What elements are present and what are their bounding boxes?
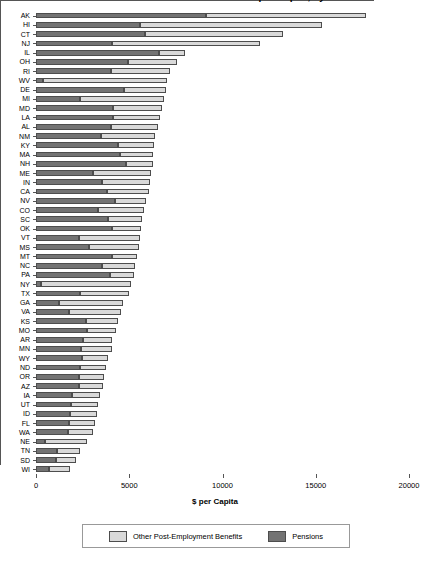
segment-opeb bbox=[112, 254, 137, 260]
y-tick-label-ia: IA bbox=[0, 392, 30, 399]
bar-hi bbox=[36, 22, 322, 28]
y-tick-ut bbox=[33, 405, 36, 406]
segment-opeb bbox=[86, 318, 118, 324]
segment-pensions bbox=[36, 216, 108, 222]
segment-pensions bbox=[36, 420, 69, 426]
segment-opeb bbox=[59, 300, 122, 306]
y-tick-sd bbox=[33, 460, 36, 461]
x-tick-label-5000: 5000 bbox=[121, 481, 138, 490]
y-tick-az bbox=[33, 386, 36, 387]
y-tick-ma bbox=[33, 155, 36, 156]
segment-pensions bbox=[36, 309, 69, 315]
segment-pensions bbox=[36, 365, 80, 371]
segment-opeb bbox=[79, 383, 103, 389]
segment-pensions bbox=[36, 448, 57, 454]
segment-pensions bbox=[36, 328, 87, 334]
bar-wv bbox=[36, 78, 167, 84]
y-tick-label-mn: MN bbox=[0, 345, 30, 352]
y-tick-ms bbox=[33, 247, 36, 248]
bar-nv bbox=[36, 198, 146, 204]
segment-opeb bbox=[140, 22, 322, 28]
legend-swatch-pensions bbox=[268, 531, 286, 542]
bar-ri bbox=[36, 68, 170, 74]
y-tick-label-ok: OK bbox=[0, 225, 30, 232]
segment-opeb bbox=[206, 13, 366, 19]
segment-pensions bbox=[36, 318, 86, 324]
bar-ma bbox=[36, 152, 153, 158]
y-tick-in bbox=[33, 182, 36, 183]
y-tick-nm bbox=[33, 136, 36, 137]
y-tick-de bbox=[33, 90, 36, 91]
segment-pensions bbox=[36, 152, 120, 158]
segment-opeb bbox=[80, 365, 106, 371]
bar-ca bbox=[36, 189, 149, 195]
segment-opeb bbox=[56, 457, 77, 463]
segment-opeb bbox=[126, 161, 153, 167]
segment-pensions bbox=[36, 115, 113, 121]
bar-al bbox=[36, 124, 158, 130]
segment-opeb bbox=[113, 105, 161, 111]
segment-opeb bbox=[111, 124, 159, 130]
y-tick-label-tn: TN bbox=[0, 447, 30, 454]
segment-opeb bbox=[89, 244, 138, 250]
segment-opeb bbox=[111, 68, 171, 74]
y-tick-mt bbox=[33, 256, 36, 257]
bar-mo bbox=[36, 328, 116, 334]
x-tick-label-10000: 10000 bbox=[212, 481, 233, 490]
segment-pensions bbox=[36, 96, 80, 102]
y-tick-me bbox=[33, 173, 36, 174]
x-tick-0 bbox=[36, 474, 37, 478]
segment-pensions bbox=[36, 402, 71, 408]
bar-ut bbox=[36, 402, 98, 408]
segment-opeb bbox=[118, 142, 154, 148]
bar-mn bbox=[36, 346, 112, 352]
y-tick-ca bbox=[33, 192, 36, 193]
y-tick-il bbox=[33, 53, 36, 54]
segment-opeb bbox=[45, 439, 87, 445]
bar-la bbox=[36, 115, 160, 121]
bar-de bbox=[36, 87, 166, 93]
y-tick-nv bbox=[33, 201, 36, 202]
y-tick-label-in: IN bbox=[0, 179, 30, 186]
y-tick-label-nv: NV bbox=[0, 197, 30, 204]
y-tick-va bbox=[33, 312, 36, 313]
bar-ct bbox=[36, 31, 283, 37]
y-tick-label-or: OR bbox=[0, 373, 30, 380]
y-tick-ri bbox=[33, 71, 36, 72]
bar-wi bbox=[36, 466, 70, 472]
bar-nh bbox=[36, 161, 153, 167]
segment-pensions bbox=[36, 429, 68, 435]
bar-ks bbox=[36, 318, 118, 324]
x-tick-5000 bbox=[129, 474, 130, 478]
x-axis-title: $ per Capita bbox=[0, 497, 430, 506]
y-tick-label-pa: PA bbox=[0, 271, 30, 278]
bar-sc bbox=[36, 216, 142, 222]
segment-opeb bbox=[112, 41, 260, 47]
segment-pensions bbox=[36, 291, 80, 297]
x-tick-10000 bbox=[223, 474, 224, 478]
segment-opeb bbox=[120, 152, 154, 158]
bar-tx bbox=[36, 291, 129, 297]
y-tick-label-me: ME bbox=[0, 170, 30, 177]
segment-pensions bbox=[36, 50, 159, 56]
bar-nj bbox=[36, 41, 260, 47]
segment-pensions bbox=[36, 207, 98, 213]
segment-pensions bbox=[36, 244, 89, 250]
legend-swatch-opeb bbox=[109, 531, 127, 542]
bar-co bbox=[36, 207, 144, 213]
segment-opeb bbox=[69, 420, 95, 426]
y-tick-nh bbox=[33, 164, 36, 165]
y-tick-label-nj: NJ bbox=[0, 40, 30, 47]
y-tick-nc bbox=[33, 266, 36, 267]
segment-pensions bbox=[36, 31, 145, 37]
y-tick-nj bbox=[33, 43, 36, 44]
y-tick-ne bbox=[33, 442, 36, 443]
y-tick-label-fl: FL bbox=[0, 420, 30, 427]
y-tick-vt bbox=[33, 238, 36, 239]
y-tick-fl bbox=[33, 423, 36, 424]
y-tick-label-mo: MO bbox=[0, 327, 30, 334]
segment-pensions bbox=[36, 411, 70, 417]
bar-id bbox=[36, 411, 97, 417]
y-tick-label-ak: AK bbox=[0, 12, 30, 19]
y-tick-mo bbox=[33, 330, 36, 331]
